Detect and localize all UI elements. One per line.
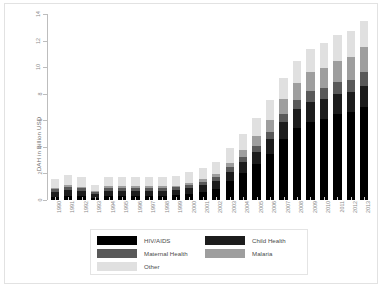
legend-items: HIV/AIDSChild HealthMaternal HealthMalar… (97, 234, 303, 273)
x-tick-label: 1999 (178, 201, 183, 213)
x-tick-label: 1993 (97, 201, 102, 213)
legend-swatch-other (97, 262, 137, 271)
bar-segment (226, 172, 234, 181)
x-tick-label: 1991 (70, 201, 75, 213)
y-tick-label: 14 (36, 11, 41, 17)
plot-area: 02468101214 (47, 14, 372, 200)
x-tick-mark (55, 197, 56, 200)
bar-segment (131, 177, 139, 186)
y-tick-label: 4 (38, 145, 43, 148)
x-tick-label: 2009 (313, 201, 318, 213)
bar-column[interactable] (293, 61, 301, 200)
bar-segment (104, 177, 112, 186)
y-tick-mark (43, 120, 47, 121)
legend-item[interactable]: Child Health (205, 234, 303, 247)
x-tick-label: 1994 (111, 201, 116, 213)
bar-segment (320, 119, 328, 200)
bar-segment (347, 112, 355, 200)
bar-column[interactable] (347, 31, 355, 200)
bar-segment (252, 136, 260, 145)
legend-swatch-child-health (205, 236, 245, 245)
y-tick-label: 8 (38, 92, 43, 95)
bar-column[interactable] (252, 118, 260, 200)
bar-column[interactable] (199, 168, 207, 200)
bar-segment (293, 100, 301, 109)
x-tick-label: 2005 (259, 201, 264, 213)
bar-segment (212, 181, 220, 188)
y-tick-mark (43, 67, 47, 68)
x-axis-labels: 1990199119921993199419951996199719981999… (48, 201, 372, 231)
x-tick-label: 2012 (353, 201, 358, 213)
bar-segment (333, 114, 341, 200)
bar-segment (293, 61, 301, 84)
bar-segment (333, 94, 341, 114)
y-axis-title: DAH in Billion USD (35, 116, 42, 170)
bar-segment (320, 68, 328, 88)
bar-segment (333, 61, 341, 82)
x-tick-mark (95, 197, 96, 200)
x-tick-label: 2006 (272, 201, 277, 213)
bar-segment (333, 82, 341, 94)
bar-column[interactable] (360, 21, 368, 200)
bar-segment (77, 177, 85, 186)
x-tick-label: 2000 (192, 201, 197, 213)
bar-column[interactable] (226, 148, 234, 200)
x-tick-label: 2008 (299, 201, 304, 213)
bar-segment (320, 43, 328, 68)
x-tick-label: 1990 (57, 201, 62, 213)
legend-item[interactable]: Maternal Health (97, 247, 205, 260)
legend-item[interactable]: HIV/AIDS (97, 234, 205, 247)
bar-column[interactable] (333, 35, 341, 200)
bar-segment (347, 31, 355, 57)
bar-segment (226, 148, 234, 163)
bar-segment (185, 172, 193, 183)
legend: HIV/AIDSChild HealthMaternal HealthMalar… (90, 229, 308, 275)
bar-segment (306, 49, 314, 73)
bar-column[interactable] (266, 100, 274, 200)
bar-column[interactable] (279, 78, 287, 200)
bar-segment (252, 118, 260, 137)
x-tick-label: 2004 (245, 201, 250, 213)
y-tick-mark (43, 41, 47, 42)
bar-segment (279, 114, 287, 122)
bar-segment (306, 122, 314, 200)
bar-segment (347, 57, 355, 80)
x-tick-label: 2013 (366, 201, 371, 213)
bar-column[interactable] (185, 172, 193, 200)
x-tick-mark (68, 197, 69, 200)
bar-segment (239, 150, 247, 157)
y-tick-label: 10 (36, 64, 41, 70)
x-tick-label: 1997 (151, 201, 156, 213)
bar-segment (347, 80, 355, 93)
x-tick-mark (284, 197, 285, 200)
bar-segment (118, 177, 126, 186)
y-tick-label: 12 (36, 38, 41, 44)
bar-segment (266, 139, 274, 154)
chart-screenshot: DAH in Billion USD 02468101214 199019911… (0, 0, 382, 287)
y-tick-mark (43, 200, 47, 201)
legend-item[interactable]: Other (97, 260, 205, 273)
bar-segment (306, 72, 314, 91)
y-tick-mark (43, 147, 47, 148)
x-tick-label: 1996 (138, 201, 143, 213)
legend-item[interactable]: Malaria (205, 247, 303, 260)
bar-column[interactable] (306, 49, 314, 200)
bar-segment (145, 177, 153, 186)
y-tick-label: 0 (38, 199, 43, 202)
legend-swatch-hiv-aids (97, 236, 137, 245)
bar-segment (293, 109, 301, 128)
bar-segment (266, 132, 274, 139)
legend-label: Malaria (252, 250, 272, 257)
x-tick-mark (324, 197, 325, 200)
bar-segment (51, 179, 59, 188)
x-tick-label: 2011 (340, 201, 345, 213)
bar-column[interactable] (320, 43, 328, 200)
bar-column[interactable] (212, 162, 220, 200)
bar-segment (279, 99, 287, 114)
bar-segment (266, 120, 274, 132)
bar-segment (172, 176, 180, 185)
x-tick-mark (243, 197, 244, 200)
x-tick-mark (310, 197, 311, 200)
bar-column[interactable] (239, 134, 247, 200)
bar-segment (320, 99, 328, 119)
